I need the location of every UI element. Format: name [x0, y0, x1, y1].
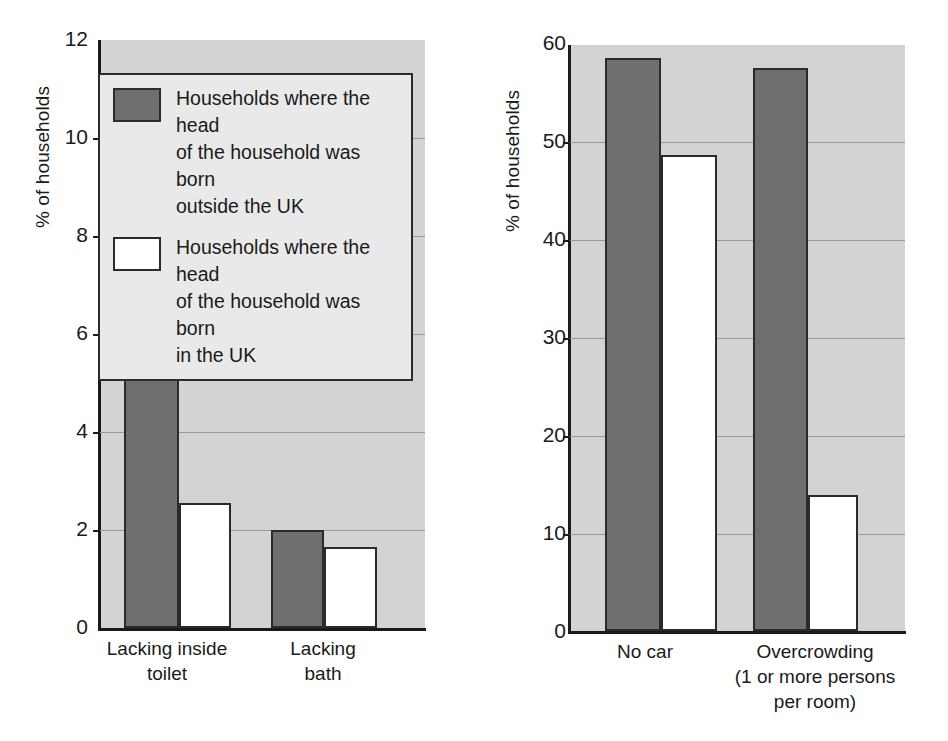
y-tick-label-0: 0: [30, 615, 88, 639]
legend-label-in-uk: Households where the head of the househo…: [176, 234, 399, 369]
y-tick-label-30: 30: [504, 325, 566, 349]
plot-area-right: [570, 45, 905, 631]
x-category-label-no-car: No car: [580, 639, 710, 664]
bar-lacking-bath-outside-uk: [271, 530, 324, 628]
bar-no-car-in-uk: [661, 155, 717, 631]
x-category-label-lacking-inside-toilet: Lacking inside toilet: [102, 636, 232, 686]
chart-panel-right: % of households 60 50 40 30 20 10 0: [474, 0, 948, 741]
y-tick-label-4: 4: [30, 419, 88, 443]
bar-lacking-inside-toilet-in-uk: [179, 503, 231, 628]
bar-lacking-bath-in-uk: [324, 547, 377, 628]
legend-swatch-outside-uk: [113, 88, 161, 122]
x-category-label-lacking-bath: Lacking bath: [258, 636, 388, 686]
y-axis-line-right: [568, 45, 571, 634]
legend-entry-outside-uk: Households where the head of the househo…: [113, 85, 399, 220]
x-category-label-overcrowding: Overcrowding (1 or more persons per room…: [710, 639, 920, 714]
y-axis-title-left: % of households: [32, 86, 54, 228]
y-tick-label-12: 12: [30, 27, 88, 51]
chart-panel-left: % of households 12 10 8 6 4 2 0: [0, 0, 474, 741]
y-tick-label-40: 40: [504, 227, 566, 251]
y-tick-label-0: 0: [504, 619, 566, 643]
y-tick-label-2: 2: [30, 517, 88, 541]
x-axis-line-right: [568, 631, 906, 634]
y-tick-label-6: 6: [30, 321, 88, 345]
y-tick-label-10: 10: [504, 521, 566, 545]
x-axis-line-left: [98, 628, 426, 631]
bar-overcrowding-in-uk: [808, 495, 858, 631]
y-tick-label-50: 50: [504, 129, 566, 153]
bar-no-car-outside-uk: [605, 58, 661, 631]
plot-area-left: Households where the head of the househo…: [100, 40, 425, 628]
bar-overcrowding-outside-uk: [753, 68, 808, 631]
legend-swatch-in-uk: [113, 237, 161, 271]
y-tick-label-60: 60: [504, 31, 566, 55]
y-tick-label-20: 20: [504, 423, 566, 447]
bar-lacking-inside-toilet-outside-uk: [124, 346, 179, 628]
legend-entry-in-uk: Households where the head of the househo…: [113, 234, 399, 369]
y-tick-label-8: 8: [30, 223, 88, 247]
y-axis-title-right: % of households: [502, 90, 524, 232]
legend-label-outside-uk: Households where the head of the househo…: [176, 85, 399, 220]
grouped-bar-chart-figure: % of households 12 10 8 6 4 2 0: [0, 0, 948, 741]
legend: Households where the head of the househo…: [98, 73, 413, 381]
y-tick-label-10: 10: [30, 125, 88, 149]
